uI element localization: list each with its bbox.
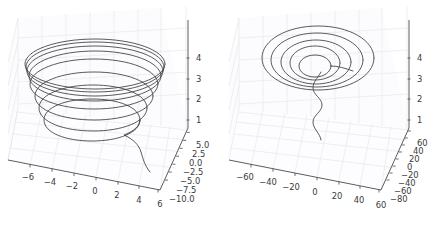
left-z-ticklabel-3: 4 xyxy=(196,53,201,63)
left-x-ticklabel-6: 6 xyxy=(157,199,162,209)
right-y-ticklabel-7: −80 xyxy=(390,194,408,204)
left-z-ticklabel-2: 3 xyxy=(196,74,201,84)
left-z-ticklabel-0: 1 xyxy=(196,115,201,125)
left-z-ticklabels: 1 2 3 4 xyxy=(196,53,201,125)
right-x-ticklabel-4: 20 xyxy=(332,191,343,201)
left-x-ticklabel-2: −2 xyxy=(66,181,78,191)
right-x-ticklabel-6: 60 xyxy=(376,200,387,210)
left-x-ticklabel-5: 4 xyxy=(136,195,141,205)
right-z-ticklabel-3: 4 xyxy=(417,53,422,63)
right-z-ticklabel-0: 1 xyxy=(417,115,422,125)
right-z-ticklabels: 1 2 3 4 xyxy=(417,53,422,125)
right-x-ticklabel-3: 0 xyxy=(312,187,317,197)
right-z-ticklabel-1: 2 xyxy=(417,94,422,104)
left-x-ticklabel-0: −6 xyxy=(22,172,34,182)
left-x-ticklabel-1: −4 xyxy=(44,177,56,187)
right-x-ticklabel-5: 40 xyxy=(354,195,365,205)
right-x-ticklabel-0: −60 xyxy=(236,172,254,182)
left-x-ticklabel-4: 2 xyxy=(114,190,119,200)
left-y-ticklabel-6: −10.0 xyxy=(169,194,195,204)
right-x-ticklabel-1: −40 xyxy=(259,177,277,187)
right-z-ticklabel-2: 3 xyxy=(417,74,422,84)
subplot-right-flat-spiral: −60 −40 −20 0 20 40 60 60 40 xyxy=(221,0,442,230)
left-z-ticklabel-1: 2 xyxy=(196,94,201,104)
subplot-left-conical-helix: −6 −4 −2 0 2 4 6 5.0 2.5 0.0 xyxy=(0,0,221,230)
right-axes-3d: −60 −40 −20 0 20 40 60 60 40 xyxy=(221,0,442,230)
left-x-ticklabel-3: 0 xyxy=(92,186,97,196)
right-x-ticklabel-2: −20 xyxy=(282,182,300,192)
left-axes-3d: −6 −4 −2 0 2 4 6 5.0 2.5 0.0 xyxy=(0,0,221,230)
figure-canvas: −6 −4 −2 0 2 4 6 5.0 2.5 0.0 xyxy=(0,0,443,230)
